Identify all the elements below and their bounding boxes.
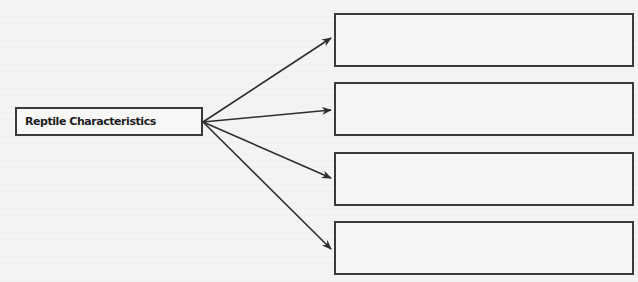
- arrow-to-box-4: [203, 122, 331, 249]
- source-node-label: Reptile Characteristics: [25, 115, 156, 128]
- answer-box-4[interactable]: [334, 221, 634, 275]
- source-node-box: Reptile Characteristics: [15, 107, 203, 136]
- answer-box-2[interactable]: [334, 82, 634, 136]
- arrow-to-box-2: [203, 110, 331, 122]
- answer-box-1[interactable]: [334, 13, 634, 67]
- arrow-to-box-1: [203, 38, 331, 122]
- answer-box-3[interactable]: [334, 152, 634, 206]
- arrow-to-box-3: [203, 122, 331, 178]
